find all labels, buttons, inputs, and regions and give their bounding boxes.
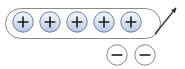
positive-charge-1	[13, 12, 33, 32]
positive-charge-4	[94, 12, 114, 32]
diagram-canvas	[0, 0, 185, 69]
positive-charge-2	[40, 12, 60, 32]
negative-charge-2	[135, 45, 155, 65]
charge-diagram	[0, 0, 185, 69]
positive-charge-5	[121, 12, 141, 32]
positive-charge-3	[67, 12, 87, 32]
negative-charge-1	[107, 45, 127, 65]
leader-arrow	[155, 8, 176, 34]
